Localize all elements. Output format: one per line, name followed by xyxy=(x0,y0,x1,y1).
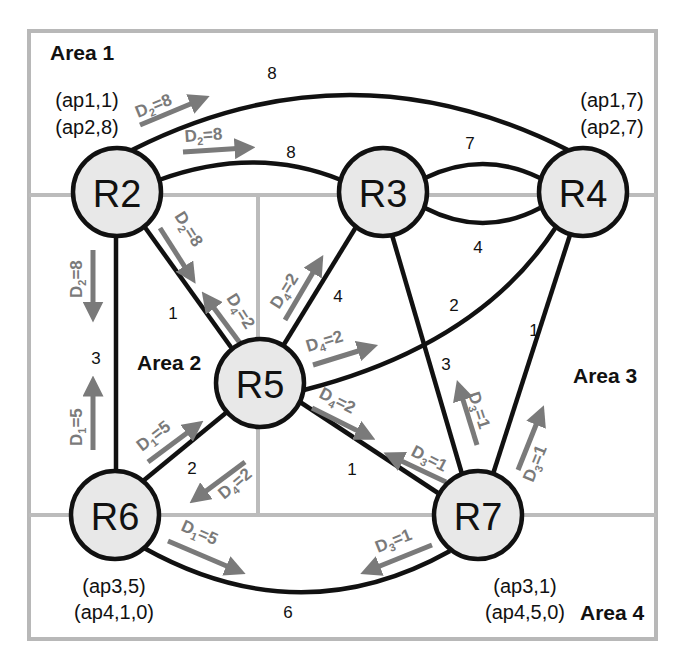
node-r3-label: R3 xyxy=(359,173,408,215)
edge-weight-r4-r5: 2 xyxy=(449,296,458,315)
node-r6-label: R6 xyxy=(91,496,140,538)
edge-weight-r3-r4-lower: 4 xyxy=(473,238,482,257)
r2-annotation-line1: (ap1,1) xyxy=(55,89,118,111)
edge-weight-r2-r3: 8 xyxy=(286,143,295,162)
r4-annotation-line2: (ap2,7) xyxy=(580,116,643,138)
node-r6[interactable]: R6 xyxy=(71,471,159,559)
edge-weight-r2-r4: 8 xyxy=(267,64,276,83)
area3-label: Area 3 xyxy=(573,364,637,387)
node-r5-label: R5 xyxy=(236,364,285,406)
node-r7[interactable]: R7 xyxy=(434,471,522,559)
flow-label: D1=5 xyxy=(67,408,88,446)
flow-label: D4=2 xyxy=(266,270,304,313)
edge-weight-r5-r7: 1 xyxy=(347,460,356,479)
r6-annotation-line2: (ap4,1,0) xyxy=(74,601,154,623)
edge-weight-r2-r6: 3 xyxy=(91,349,100,368)
network-diagram: D2=8 D2=8 D2=8 D2=8 D4=2 D4=2 D4=2 D4=2 … xyxy=(0,0,692,654)
edge-r3-r4-upper xyxy=(425,164,540,178)
r2-annotation-line2: (ap2,8) xyxy=(55,116,118,138)
r7-annotation-line1: (ap3,1) xyxy=(493,575,556,597)
area2-label: Area 2 xyxy=(137,351,201,374)
flow-label: D1=5 xyxy=(133,417,176,457)
area4-label: Area 4 xyxy=(580,601,645,624)
r7-annotation-line2: (ap4,5,0) xyxy=(485,601,565,623)
flow-arrow xyxy=(183,148,245,152)
flow-label: D2=8 xyxy=(169,208,207,251)
flow-label: D2=8 xyxy=(67,260,88,298)
edge-weight-r3-r7: 3 xyxy=(441,355,450,374)
flow-label: D4=2 xyxy=(304,327,346,358)
node-r7-label: R7 xyxy=(454,496,503,538)
node-r2-label: R2 xyxy=(93,173,142,215)
flow-label: D4=2 xyxy=(214,464,256,504)
edge-weight-r3-r5: 4 xyxy=(333,287,342,306)
edge-weight-r5-r6: 2 xyxy=(187,459,196,478)
r6-annotation-line1: (ap3,5) xyxy=(82,575,145,597)
edge-r2-r3 xyxy=(159,163,341,181)
edge-weight-r3-r4-upper: 7 xyxy=(465,134,474,153)
r4-annotation-line1: (ap1,7) xyxy=(580,89,643,111)
edge-weight-r4-r7: 1 xyxy=(529,321,538,340)
flow-label: D2=8 xyxy=(184,124,223,148)
edge-r3-r4-lower xyxy=(425,208,540,223)
node-r4[interactable]: R4 xyxy=(539,148,627,236)
area1-label: Area 1 xyxy=(50,41,115,64)
node-r2[interactable]: R2 xyxy=(73,148,161,236)
node-r4-label: R4 xyxy=(559,173,608,215)
edge-weight-r2-r5: 1 xyxy=(168,304,177,323)
node-r3[interactable]: R3 xyxy=(339,148,427,236)
edge-weight-r6-r7: 6 xyxy=(283,603,292,622)
node-r5[interactable]: R5 xyxy=(216,339,304,427)
